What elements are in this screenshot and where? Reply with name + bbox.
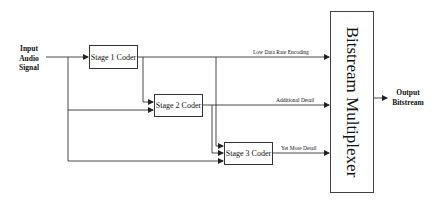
- stage-3-coder-label: Stage 3 Coder: [226, 149, 271, 158]
- bitstream-multiplexer-label: Bitstream Multiplexer: [342, 27, 362, 178]
- input-label-line: Audio: [12, 54, 46, 64]
- edge-label-additional-detail: Additional Detail: [276, 97, 314, 103]
- output-bitstream-label: Output Bitstream: [388, 88, 428, 107]
- input-label-line: Input: [12, 44, 46, 54]
- stage-3-coder-box: Stage 3 Coder: [224, 142, 273, 165]
- stage-1-coder-box: Stage 1 Coder: [89, 45, 138, 69]
- edge-label-low-data-rate: Low Data Rate Encoding: [253, 49, 309, 55]
- input-label-line: Signal: [12, 63, 46, 73]
- output-label-line: Bitstream: [388, 98, 428, 108]
- input-audio-signal-label: Input Audio Signal: [12, 44, 46, 73]
- bitstream-multiplexer-box: Bitstream Multiplexer: [330, 11, 374, 193]
- stage-1-coder-label: Stage 1 Coder: [91, 53, 136, 62]
- connector-lines: [0, 0, 446, 202]
- edge-label-yet-more-detail: Yet More Detail: [281, 145, 317, 151]
- stage-2-coder-box: Stage 2 Coder: [154, 94, 203, 117]
- output-label-line: Output: [388, 88, 428, 98]
- stage-2-coder-label: Stage 2 Coder: [156, 101, 201, 110]
